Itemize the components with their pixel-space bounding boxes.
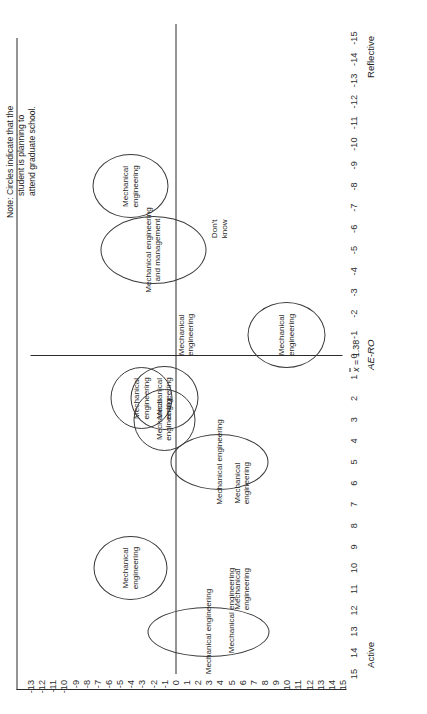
data-point-label: Mechanical engineering (177, 314, 196, 356)
y-tick-label: -11 (47, 680, 57, 700)
x-axis-line (175, 24, 176, 674)
x-tick-label: 7 (348, 502, 358, 507)
y-tick-label: -8 (81, 680, 91, 700)
data-point-label: Mechanical engineering (226, 568, 235, 654)
y-tick-label: -1 (159, 680, 169, 700)
x-tick-label: -1 (348, 331, 358, 339)
x-tick-label: 5 (348, 459, 358, 464)
x-tick-label: -9 (348, 161, 358, 169)
data-point-label: Mechanical engineering (204, 589, 213, 675)
x-tick-label: 10 (348, 563, 358, 573)
y-tick-label: -4 (125, 680, 135, 700)
x-tick-label: -10 (348, 137, 358, 151)
x-tick-label: -2 (348, 309, 358, 317)
graduate-school-circle (130, 366, 198, 430)
graduate-school-circle (170, 434, 268, 490)
y-tick-label: 3 (203, 680, 213, 700)
y-tick-label: -3 (136, 680, 146, 700)
x-tick-label: 1 (348, 375, 358, 380)
x-tick-label: 15 (348, 669, 358, 679)
x-tick-label: -4 (348, 267, 358, 275)
chart-note-line-3: attend graduate school. (26, 6, 37, 196)
y-axis-line (30, 355, 342, 356)
y-tick-label: -2 (148, 680, 158, 700)
y-tick-label: 4 (214, 680, 224, 700)
y-tick-label: 1 (181, 680, 191, 700)
x-tick-label: -3 (348, 288, 358, 296)
graduate-school-circle (147, 607, 269, 657)
y-tick-label: 11 (292, 680, 302, 700)
y-tick-label: 10 (281, 680, 291, 700)
axis-pole-reflective: Reflective (364, 36, 375, 78)
x-tick-label: -15 (348, 31, 358, 45)
data-point-label: Mechanical engineering (277, 314, 296, 356)
x-tick-label: -13 (348, 74, 358, 88)
y-tick-label: -9 (70, 680, 80, 700)
x-tick-label: 6 (348, 481, 358, 486)
x-tick-label: -11 (348, 116, 358, 129)
y-tick-label: 5 (226, 680, 236, 700)
y-tick-label: 14 (326, 680, 336, 700)
y-tick-label: -13 (25, 680, 35, 700)
x-tick-label: 11 (348, 584, 358, 594)
y-tick-label: 7 (248, 680, 258, 700)
y-tick-label: 9 (270, 680, 280, 700)
y-axis-ticks: -13-12-11-10-9-8-7-6-5-4-3-2-10123456789… (0, 0, 427, 714)
data-points-layer: Mechanical engineeringMechanical enginee… (0, 0, 427, 714)
x-tick-label: -12 (348, 95, 358, 109)
x-tick-label: 13 (348, 626, 358, 636)
y-tick-label: 13 (315, 680, 325, 700)
data-point-label: Don't know (210, 219, 229, 238)
y-tick-label: -12 (36, 680, 46, 700)
data-point-label: Mechanical engineering and management (143, 207, 162, 293)
x-axis-mean: x = 1.38 (350, 340, 360, 372)
graduate-school-circle (92, 154, 168, 218)
graduate-school-circle (110, 367, 172, 429)
axis-pole-active: Active (364, 642, 375, 668)
x-axis-ticks: 1514131211109876543210-1-2-3-4-5-6-7-8-9… (0, 0, 427, 714)
data-point-label: Mechanical engineering (232, 462, 251, 504)
graduate-school-circle (100, 216, 206, 284)
x-axis-name: AE-RO (364, 340, 375, 370)
y-tick-label: 15 (337, 680, 347, 700)
data-point-label: Mechanical engineering (215, 419, 224, 505)
x-tick-label: -6 (348, 225, 358, 233)
graduate-school-circle (93, 536, 167, 600)
x-tick-label: 12 (348, 605, 358, 615)
y-tick-label: 12 (304, 680, 314, 700)
data-point-label: Mechanical engineering (232, 568, 251, 610)
x-tick-label: 8 (348, 523, 358, 528)
x-tick-label: 3 (348, 417, 358, 422)
chart-note: Note: Circles indicate that the student … (4, 28, 37, 218)
data-point-label: Mechanical engineering (154, 377, 173, 419)
y-tick-label: -5 (114, 680, 124, 700)
figure-page: 1514131211109876543210-1-2-3-4-5-6-7-8-9… (0, 0, 427, 714)
frame-rule-left (16, 689, 346, 690)
x-tick-label: 14 (348, 648, 358, 658)
data-point-label: Mechanical engineering (154, 398, 173, 440)
x-tick-label: -8 (348, 182, 358, 190)
data-point-label: Mechanical engineering (132, 377, 151, 419)
x-tick-label: 2 (348, 396, 358, 401)
x-tick-label: 4 (348, 438, 358, 443)
y-tick-label: 6 (237, 680, 247, 700)
graduate-school-circle (247, 302, 325, 368)
scatter-plot-figure: 1514131211109876543210-1-2-3-4-5-6-7-8-9… (0, 0, 427, 714)
y-tick-label: 8 (259, 680, 269, 700)
y-tick-label: 2 (192, 680, 202, 700)
graduate-school-circle (133, 389, 195, 451)
y-tick-label: -6 (103, 680, 113, 700)
x-tick-label: 9 (348, 544, 358, 549)
y-tick-label: 0 (170, 680, 180, 700)
x-tick-label: -5 (348, 246, 358, 254)
x-tick-label: -7 (348, 203, 358, 211)
chart-note-line-2: student is planning to (15, 6, 26, 196)
chart-note-line-1: Note: Circles indicate that the (4, 28, 15, 218)
data-point-label: Mechanical engineering (121, 165, 140, 207)
data-point-label: Mechanical engineering (121, 547, 140, 589)
y-tick-label: -10 (58, 680, 68, 700)
y-tick-label: -7 (92, 680, 102, 700)
x-tick-label: -14 (348, 52, 358, 66)
